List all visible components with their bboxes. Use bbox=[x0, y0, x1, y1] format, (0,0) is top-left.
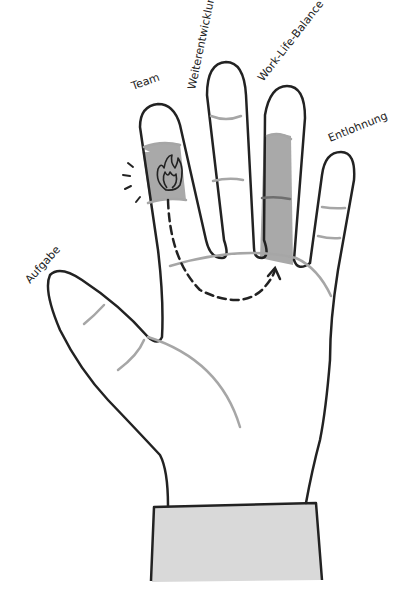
hand-diagram: Team Weiterentwicklung Work-Life-Balance… bbox=[0, 0, 393, 612]
emphasis-marks bbox=[123, 163, 140, 202]
label-aufgabe: Aufgabe bbox=[23, 243, 63, 286]
label-entlohnung: Entlohnung bbox=[326, 109, 389, 145]
label-worklife: Work-Life-Balance bbox=[255, 0, 326, 84]
hand-outline bbox=[48, 62, 354, 506]
label-team: Team bbox=[129, 71, 162, 94]
palm-lines bbox=[148, 253, 331, 427]
sleeve bbox=[151, 503, 322, 582]
label-weiterentwicklung: Weiterentwicklung bbox=[185, 0, 219, 91]
